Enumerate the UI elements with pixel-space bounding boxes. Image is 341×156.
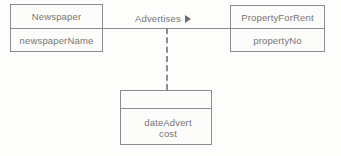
- entity-property-for-rent[interactable]: PropertyForRent propertyNo: [230, 5, 325, 52]
- entity-newspaper-title: Newspaper: [11, 5, 102, 29]
- direction-arrow-icon: [185, 15, 191, 23]
- attribute-newspaper-name: newspaperName: [11, 35, 102, 46]
- attribute-property-no: propertyNo: [231, 35, 324, 46]
- entity-newspaper-attributes: newspaperName: [11, 29, 102, 52]
- entity-newspaper[interactable]: Newspaper newspaperName: [10, 4, 103, 52]
- relationship-label: Advertises: [133, 13, 193, 24]
- entity-advert-attribute-list: dateAdvert cost: [121, 109, 211, 145]
- relationship-label-text: Advertises: [135, 13, 181, 24]
- entity-advert-title: [121, 91, 211, 109]
- er-diagram-canvas: Newspaper newspaperName PropertyForRent …: [0, 0, 341, 156]
- entity-property-for-rent-title: PropertyForRent: [231, 6, 324, 29]
- entity-advert-attributes[interactable]: dateAdvert cost: [120, 90, 212, 145]
- attribute-date-advert: dateAdvert: [119, 117, 213, 128]
- entity-property-for-rent-attributes: propertyNo: [231, 29, 324, 52]
- attribute-cost: cost: [119, 128, 213, 139]
- associative-dashed-connector: [166, 28, 168, 90]
